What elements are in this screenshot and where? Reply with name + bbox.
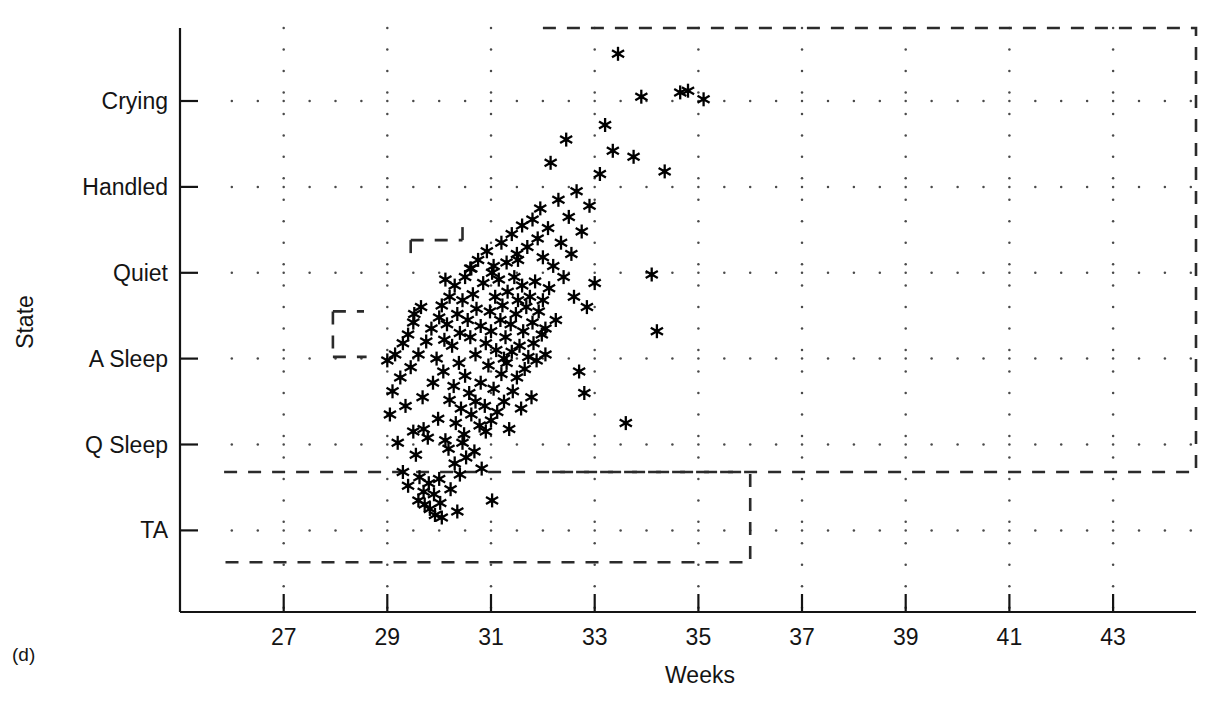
grid-dot — [697, 263, 700, 266]
grid-dot — [801, 306, 804, 309]
asterisk-core — [419, 305, 424, 310]
grid-dot — [490, 357, 493, 360]
grid-dot — [697, 327, 700, 330]
grid-dot — [904, 100, 907, 103]
grid-dot — [801, 564, 804, 567]
x-tick-label-27: 27 — [271, 624, 297, 650]
asterisk-core — [453, 421, 458, 426]
grid-dot — [593, 220, 596, 223]
asterisk-core — [443, 438, 448, 443]
grid-dot — [1112, 220, 1115, 223]
grid-dot — [956, 100, 959, 103]
grid-dot — [1138, 443, 1141, 446]
grid-dot — [308, 186, 311, 189]
asterisk-core — [441, 369, 446, 374]
grid-dot — [801, 177, 804, 180]
grid-dot — [282, 113, 285, 116]
asterisk-core — [412, 312, 417, 317]
grid-dot — [801, 241, 804, 244]
grid-dot — [490, 220, 493, 223]
grid-dot — [1008, 585, 1011, 588]
grid-dot — [697, 499, 700, 502]
asterisk-core — [505, 289, 510, 294]
grid-dot — [904, 199, 907, 202]
grid-dot — [282, 413, 285, 416]
asterisk-core — [623, 421, 628, 426]
asterisk-core — [551, 264, 556, 269]
asterisk-core — [421, 489, 426, 494]
grid-dot — [490, 542, 493, 545]
grid-dot — [879, 529, 882, 532]
asterisk-core — [439, 303, 444, 308]
x-tick-label-31: 31 — [478, 624, 504, 650]
grid-dot — [308, 357, 311, 360]
asterisk-core — [528, 294, 533, 299]
asterisk-core — [572, 294, 577, 299]
grid-dot — [1112, 177, 1115, 180]
grid-dot — [360, 100, 363, 103]
asterisk-core — [447, 398, 452, 403]
grid-dot — [386, 134, 389, 137]
asterisk-core — [486, 363, 491, 368]
asterisk-core — [438, 501, 443, 506]
grid-dot — [1008, 443, 1011, 446]
grid-dot — [930, 357, 933, 360]
grid-dot — [386, 91, 389, 94]
grid-dot — [593, 392, 596, 395]
grid-dot — [853, 357, 856, 360]
grid-dot — [593, 48, 596, 51]
grid-dot — [904, 357, 907, 360]
grid-dot — [593, 241, 596, 244]
grid-dot — [386, 327, 389, 330]
grid-dot — [568, 186, 571, 189]
grid-dot — [257, 186, 260, 189]
asterisk-core — [535, 236, 540, 241]
grid-dot — [360, 186, 363, 189]
grid-dot — [516, 186, 519, 189]
grid-dot — [801, 521, 804, 524]
asterisk-core — [569, 252, 574, 257]
asterisk-core — [490, 498, 495, 503]
asterisk-core — [436, 416, 441, 421]
asterisk-core — [464, 455, 469, 460]
grid-dot — [1008, 564, 1011, 567]
grid-dot — [904, 186, 907, 189]
asterisk-core — [610, 148, 615, 153]
grid-dot — [1112, 134, 1115, 137]
asterisk-core — [424, 339, 429, 344]
grid-dot — [593, 156, 596, 159]
grid-dot — [490, 113, 493, 116]
grid-dot — [904, 413, 907, 416]
grid-dot — [853, 443, 856, 446]
asterisk-core — [541, 255, 546, 260]
grid-dot — [386, 27, 389, 30]
asterisk-core — [534, 358, 539, 363]
grid-dot — [412, 186, 415, 189]
grid-dot — [697, 284, 700, 287]
asterisk-core — [417, 475, 422, 480]
grid-dot — [619, 186, 622, 189]
grid-dot — [438, 272, 441, 275]
grid-dot — [1112, 27, 1115, 30]
grid-dot — [904, 134, 907, 137]
grid-dot — [645, 186, 648, 189]
asterisk-core — [421, 427, 426, 432]
grid-dot — [904, 443, 907, 446]
grid-dot — [801, 263, 804, 266]
grid-dot — [619, 357, 622, 360]
grid-dot — [490, 156, 493, 159]
grid-dot — [801, 392, 804, 395]
grid-dot — [801, 435, 804, 438]
asterisk-core — [530, 217, 535, 222]
grid-dot — [904, 564, 907, 567]
grid-dot — [308, 443, 311, 446]
grid-dot — [282, 349, 285, 352]
grid-dot — [801, 443, 804, 446]
grid-dot — [619, 443, 622, 446]
asterisk-core — [564, 137, 569, 142]
grid-dot — [904, 585, 907, 588]
grid-dot — [516, 100, 519, 103]
asterisk-core — [538, 206, 543, 211]
grid-dot — [879, 186, 882, 189]
grid-dot — [904, 542, 907, 545]
